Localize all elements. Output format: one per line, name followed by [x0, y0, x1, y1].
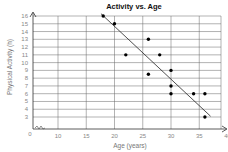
chart-title: Activity vs. Age: [106, 2, 162, 11]
x-tick-label: 10: [55, 133, 62, 139]
axis-break-icon: [35, 126, 45, 129]
data-point: [124, 53, 127, 56]
y-tick-label: 5: [25, 98, 29, 104]
scatter-chart: Activity vs. Age 010152025303540 3456789…: [0, 0, 228, 152]
data-point: [192, 92, 195, 95]
y-tick-label: 8: [25, 75, 29, 81]
trend-line: [101, 14, 211, 117]
y-axis-label: Physical Activity (h): [6, 39, 14, 95]
data-point: [203, 115, 206, 118]
y-tick-label: 15: [21, 21, 28, 27]
data-point: [169, 84, 172, 87]
y-tick-label: 11: [22, 52, 29, 58]
data-point: [102, 14, 105, 17]
data-point: [158, 53, 161, 56]
data-points: [102, 14, 207, 118]
data-point: [113, 22, 116, 25]
x-tick-label: 40: [224, 133, 228, 139]
x-tick-label: 35: [196, 133, 203, 139]
x-tick-label: 30: [168, 133, 175, 139]
y-tick-label: 14: [21, 29, 28, 35]
x-tick-label: 15: [83, 133, 90, 139]
y-tick-label: 9: [25, 67, 29, 73]
x-axis-ticks: 010152025303540: [28, 131, 228, 139]
data-point: [169, 69, 172, 72]
data-point: [147, 38, 150, 41]
y-tick-label: 12: [21, 44, 28, 50]
x-axis-label: Age (years): [113, 142, 147, 150]
axes: [30, 12, 227, 132]
data-point: [147, 73, 150, 76]
y-tick-label: 7: [25, 83, 29, 89]
x-tick-label: 0: [28, 131, 32, 137]
grid-lines: [33, 16, 221, 129]
x-tick-label: 25: [139, 133, 146, 139]
y-tick-label: 3: [25, 114, 29, 120]
y-axis-ticks: 345678910111213141516: [21, 13, 28, 120]
data-point: [169, 92, 172, 95]
y-tick-label: 10: [21, 60, 28, 66]
y-tick-label: 16: [21, 13, 28, 19]
data-point: [203, 92, 206, 95]
x-tick-label: 20: [111, 133, 118, 139]
y-tick-label: 6: [25, 91, 29, 97]
y-tick-label: 13: [21, 36, 28, 42]
y-tick-label: 4: [25, 106, 29, 112]
